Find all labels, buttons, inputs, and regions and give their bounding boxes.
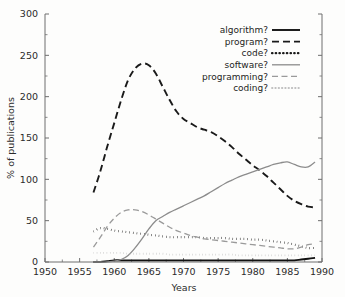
chart-container: 195019551960196519701975198019851990 050… — [0, 0, 345, 297]
x-tick-label: 1970 — [171, 266, 195, 277]
x-tick-label: 1960 — [102, 266, 126, 277]
series-line-programming — [93, 210, 315, 249]
y-tick-label: 250 — [20, 50, 38, 61]
series-line-program — [93, 63, 315, 207]
legend-label-algorithm: algorithm? — [220, 25, 268, 35]
y-tick-label: 50 — [26, 215, 38, 226]
x-tick-label: 1950 — [33, 266, 57, 277]
y-tick-label: 0 — [32, 256, 38, 267]
y-tick-label: 200 — [20, 91, 38, 102]
axis-ticks — [45, 14, 322, 262]
y-tick-labels: 050100150200250300 — [20, 8, 38, 267]
x-tick-label: 1965 — [137, 266, 161, 277]
series-line-algorithm — [93, 258, 315, 262]
chart-legend: algorithm?program?code?software?programm… — [202, 25, 300, 93]
legend-label-code: code? — [242, 48, 269, 58]
series-line-coding — [93, 253, 315, 256]
legend-label-coding: coding? — [233, 83, 268, 93]
legend-label-software: software? — [225, 60, 269, 70]
y-tick-label: 100 — [20, 174, 38, 185]
y-tick-label: 300 — [20, 8, 38, 19]
y-tick-label: 150 — [20, 132, 38, 143]
x-tick-label: 1955 — [68, 266, 92, 277]
x-tick-labels: 195019551960196519701975198019851990 — [33, 266, 334, 277]
x-tick-label: 1990 — [310, 266, 334, 277]
x-tick-label: 1985 — [275, 266, 299, 277]
series-line-software — [93, 162, 315, 262]
axes — [45, 14, 322, 262]
y-axis-title: % of publications — [5, 97, 16, 179]
publications-line-chart: 195019551960196519701975198019851990 050… — [0, 0, 345, 297]
x-tick-label: 1975 — [206, 266, 230, 277]
x-tick-label: 1980 — [241, 266, 265, 277]
x-axis-title: Years — [170, 282, 196, 293]
series-line-code — [93, 228, 315, 248]
data-series — [93, 63, 315, 262]
legend-label-program: program? — [225, 37, 268, 47]
legend-label-programming: programming? — [202, 72, 268, 82]
